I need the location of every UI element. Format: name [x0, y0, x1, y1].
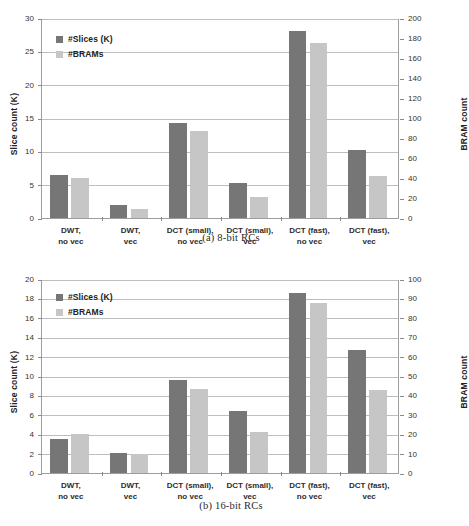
- y-tick-left: [38, 85, 42, 86]
- gridline: [42, 435, 398, 436]
- y-tick-label-left: 15: [8, 115, 34, 123]
- y-tick-right: [400, 454, 404, 455]
- y-tick-left: [38, 338, 42, 339]
- y-tick-label-right: 100: [408, 115, 434, 123]
- gridline: [42, 119, 398, 120]
- y-tick-label-right: 90: [408, 295, 434, 303]
- y-tick-label-left: 25: [8, 48, 34, 56]
- y-tick-right: [400, 357, 404, 358]
- bar-slices: [229, 183, 247, 218]
- legend-swatch-brams-icon: [56, 51, 63, 58]
- y-tick-right: [400, 19, 404, 20]
- y-tick-label-right: 40: [408, 392, 434, 400]
- legend-label-brams: #BRAMs: [68, 307, 104, 317]
- gridline: [42, 357, 398, 358]
- y-tick-right: [400, 377, 404, 378]
- gridline: [42, 19, 398, 20]
- cropped-header-text: [180, 0, 462, 9]
- bar-brams: [131, 454, 149, 473]
- bar-brams: [131, 209, 149, 218]
- y-tick-label-left: 30: [8, 15, 34, 23]
- y-tick-label-left: 4: [8, 431, 34, 439]
- legend-item-brams-b: #BRAMs: [56, 307, 113, 317]
- y-tick-left: [38, 280, 42, 281]
- y-tick-label-right: 30: [408, 412, 434, 420]
- y-tick-left: [38, 474, 42, 475]
- y-tick-left: [38, 377, 42, 378]
- y-tick-right: [400, 99, 404, 100]
- y-tick-right: [400, 435, 404, 436]
- y-tick-right: [400, 396, 404, 397]
- y-tick-label-right: 20: [408, 431, 434, 439]
- x-axis-label: DWT,no vec: [41, 480, 101, 502]
- x-group-separator: [281, 217, 282, 221]
- bar-slices: [50, 439, 68, 473]
- y-tick-label-right: 120: [408, 95, 434, 103]
- y-tick-right: [400, 474, 404, 475]
- figure-b-16bit: Slice count (K) BRAM count 0246810121416…: [0, 272, 462, 526]
- y-tick-left: [38, 396, 42, 397]
- y-tick-label-left: 0: [8, 470, 34, 478]
- legend-label-slices: #Slices (K): [68, 292, 113, 302]
- x-group-separator: [340, 472, 341, 476]
- x-group-separator: [102, 472, 103, 476]
- y-tick-right: [400, 119, 404, 120]
- legend-b: #Slices (K) #BRAMs: [56, 292, 113, 322]
- y-tick-left: [38, 219, 42, 220]
- y-tick-label-right: 100: [408, 276, 434, 284]
- x-axis-label: DCT (small),no vec: [160, 480, 220, 502]
- figure-a-8bit: Slice count (K) BRAM count 0510152025300…: [0, 10, 462, 262]
- y-tick-label-left: 10: [8, 148, 34, 156]
- bar-brams: [310, 303, 328, 473]
- y-tick-left: [38, 415, 42, 416]
- gridline: [42, 152, 398, 153]
- x-group-separator: [221, 217, 222, 221]
- x-axis-label: DWT,vec: [101, 480, 161, 502]
- bar-slices: [169, 123, 187, 218]
- figure-caption-b: (b) 16-bit RCs: [0, 500, 462, 511]
- legend-item-slices-a: #Slices (K): [56, 34, 113, 44]
- x-group-separator: [161, 472, 162, 476]
- y-tick-left: [38, 299, 42, 300]
- y-tick-label-right: 40: [408, 175, 434, 183]
- y-tick-label-right: 160: [408, 55, 434, 63]
- gridline: [42, 396, 398, 397]
- legend-item-brams-a: #BRAMs: [56, 49, 113, 59]
- bar-slices: [348, 150, 366, 218]
- y-tick-label-left: 8: [8, 392, 34, 400]
- x-axis-label: DCT (fast),no vec: [280, 480, 340, 502]
- y-tick-label-left: 12: [8, 354, 34, 362]
- bar-slices: [110, 205, 128, 218]
- y-tick-label-left: 20: [8, 276, 34, 284]
- y-tick-right: [400, 415, 404, 416]
- y-tick-label-left: 0: [8, 215, 34, 223]
- y-tick-label-left: 2: [8, 451, 34, 459]
- bar-brams: [369, 176, 387, 218]
- y-tick-label-left: 5: [8, 182, 34, 190]
- y-tick-label-right: 50: [408, 373, 434, 381]
- bar-brams: [190, 389, 208, 473]
- legend-swatch-slices-icon: [56, 36, 63, 43]
- bar-brams: [310, 43, 328, 218]
- gridline: [42, 377, 398, 378]
- x-group-separator: [221, 472, 222, 476]
- y-tick-label-right: 80: [408, 315, 434, 323]
- y-tick-label-left: 14: [8, 334, 34, 342]
- bar-slices: [50, 175, 68, 218]
- y-tick-label-right: 0: [408, 215, 434, 223]
- bar-slices: [169, 380, 187, 473]
- y-tick-label-right: 60: [408, 155, 434, 163]
- y-axis-title-right-b: BRAM count: [459, 342, 469, 422]
- y-tick-right: [400, 299, 404, 300]
- x-axis-label: DCT (small),vec: [220, 480, 280, 502]
- y-tick-right: [400, 280, 404, 281]
- bar-brams: [250, 432, 268, 473]
- y-tick-right: [400, 338, 404, 339]
- y-axis-title-right-a: BRAM count: [459, 84, 469, 164]
- y-tick-label-right: 60: [408, 354, 434, 362]
- bar-slices: [289, 293, 307, 473]
- y-tick-left: [38, 152, 42, 153]
- legend-label-brams: #BRAMs: [68, 49, 104, 59]
- bar-brams: [71, 178, 89, 218]
